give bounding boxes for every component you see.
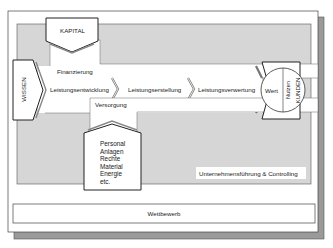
resource-item: Energie (100, 170, 125, 178)
supply-label: Versorgung (95, 101, 127, 108)
resource-item: Anlagen (100, 148, 125, 156)
capital-label: KAPITAL (60, 27, 85, 34)
benefit-label: Nutzen (285, 77, 291, 103)
process-step-development: Leistungsentwicklung (50, 86, 109, 93)
knowledge-label: WISSEN (20, 73, 27, 107)
process-step-marketing: Leistungsverwertung (198, 86, 255, 93)
financing-label: Finanzierung (57, 68, 93, 75)
resource-item: Material (100, 163, 125, 171)
competition-label: Wettbewerb (13, 210, 315, 217)
process-step-production: Leistungserstellung (128, 86, 181, 93)
management-label: Unternehmensführung & Controlling (199, 170, 298, 177)
resource-item: etc. (100, 178, 125, 186)
resource-item: Personal (100, 140, 125, 148)
value-label: Wert (265, 87, 278, 94)
customers-label: KUNDEN (294, 74, 301, 108)
resources-list: Personal Anlagen Rechte Material Energie… (100, 140, 125, 186)
resource-item: Rechte (100, 155, 125, 163)
